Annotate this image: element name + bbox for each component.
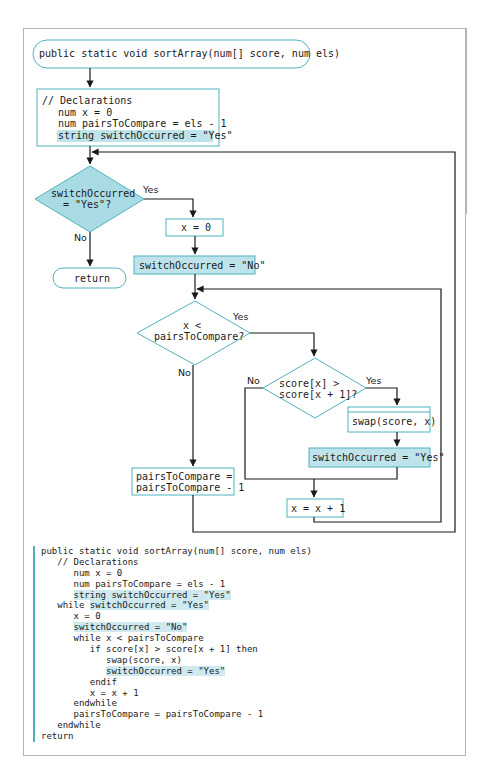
svg-text:Yes: Yes (365, 375, 381, 386)
svg-text:score[x] >: score[x] > (279, 378, 339, 389)
svg-text:No: No (74, 232, 87, 243)
svg-text:No: No (178, 367, 191, 378)
code-line: swap(score, x) (41, 655, 461, 666)
code-line: endwhile (41, 698, 461, 709)
code-line: while x < pairsToCompare (41, 633, 461, 644)
svg-text:return: return (74, 273, 110, 284)
code-line: if score[x] > score[x + 1] then (41, 644, 461, 655)
svg-text:x <: x < (183, 320, 201, 331)
code-line-highlighted: string switchOccurred = "Yes" (41, 590, 461, 601)
svg-text:num x = 0: num x = 0 (58, 107, 112, 118)
svg-text:switchOccurred = "No": switchOccurred = "No" (139, 260, 265, 271)
svg-text:num pairsToCompare = els - 1: num pairsToCompare = els - 1 (58, 118, 227, 129)
svg-text:Yes: Yes (232, 311, 248, 322)
svg-text:= "Yes"?: = "Yes"? (63, 199, 111, 210)
svg-text:swap(score, x): swap(score, x) (352, 416, 436, 427)
pseudocode-listing: public static void sortArray(num[] score… (33, 546, 461, 742)
code-line: x = x + 1 (41, 688, 461, 699)
start-label: public static void sortArray(num[] score… (39, 48, 340, 59)
svg-text:// Declarations: // Declarations (42, 95, 132, 106)
svg-text:Yes: Yes (142, 184, 158, 195)
svg-text:switchOccurred: switchOccurred (51, 188, 135, 199)
code-line: public static void sortArray(num[] score… (41, 546, 461, 557)
svg-text:No: No (247, 375, 260, 386)
code-line: endif (41, 677, 461, 688)
code-line: // Declarations (41, 557, 461, 568)
code-line: num x = 0 (41, 568, 461, 579)
svg-text:pairsToCompare?: pairsToCompare? (154, 331, 244, 342)
code-line: num pairsToCompare = els - 1 (41, 579, 461, 590)
code-line: return (41, 731, 461, 742)
code-line: endwhile (41, 720, 461, 731)
svg-text:pairsToCompare - 1: pairsToCompare - 1 (136, 482, 244, 493)
code-line: pairsToCompare = pairsToCompare - 1 (41, 709, 461, 720)
svg-text:score[x + 1]?: score[x + 1]? (279, 389, 357, 400)
svg-text:switchOccurred = "Yes": switchOccurred = "Yes" (312, 452, 444, 463)
code-line: x = 0 (41, 611, 461, 622)
code-line-highlighted: switchOccurred = "No" (41, 622, 461, 633)
svg-text:x = 0: x = 0 (181, 222, 211, 233)
svg-text:string switchOccurred = "Yes": string switchOccurred = "Yes" (58, 130, 233, 141)
code-line-highlighted: while switchOccurred = "Yes" (41, 600, 461, 611)
code-line-highlighted: switchOccurred = "Yes" (41, 666, 461, 677)
svg-text:x = x + 1: x = x + 1 (291, 503, 345, 514)
svg-text:pairsToCompare =: pairsToCompare = (136, 471, 232, 482)
